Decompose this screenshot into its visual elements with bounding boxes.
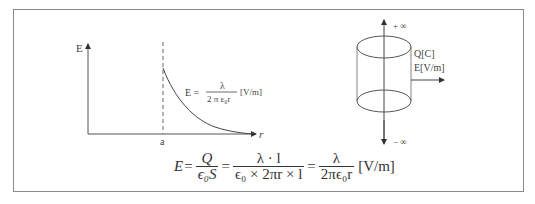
x-axis-label: r — [259, 128, 264, 140]
charge-label: Q[C] — [414, 48, 435, 59]
fraction-3-numerator: λ — [331, 151, 342, 166]
fraction-lambda-over-2pi-eps-r: λ 2πϵ₀r — [319, 151, 354, 182]
minus-infinity-label: − ∞ — [393, 137, 407, 147]
fraction-3-denominator: 2πϵ₀r — [319, 166, 354, 182]
formula-lhs: E — [174, 158, 183, 175]
fraction-2-numerator: λ · l — [255, 151, 283, 166]
gauss-law-formula: E = Q ϵ₀S = λ · l ϵ₀ × 2πr × l = λ 2πϵ₀r… — [174, 151, 395, 182]
formula-equals-2: = — [221, 158, 229, 175]
curve-formula-unit: [V/m] — [240, 87, 262, 97]
radius-marker-label: a — [160, 136, 165, 147]
plus-infinity-label: + ∞ — [393, 21, 407, 31]
curve-formula-numerator: λ — [220, 80, 225, 91]
y-axis-label: E — [76, 42, 83, 54]
fraction-1-denominator: ϵ₀S — [196, 166, 219, 182]
formula-equals-3: = — [307, 158, 315, 175]
formula-unit: [V/m] — [358, 158, 395, 175]
field-graph: E r a E = λ 2 π ε₀r [V/m] — [76, 42, 264, 147]
fraction-q-over-eps-s: Q ϵ₀S — [196, 151, 219, 182]
fraction-2-denominator: ϵ₀ × 2πr × l — [233, 166, 304, 182]
curve-formula-denominator: 2 π ε₀r — [207, 94, 230, 104]
formula-equals-1: = — [184, 158, 192, 175]
fraction-1-numerator: Q — [200, 151, 215, 166]
charged-cylinder: + ∞ − ∞ Q[C] E[V/m] — [357, 20, 445, 147]
curve-formula-lhs: E = — [185, 87, 200, 98]
field-label: E[V/m] — [414, 62, 445, 73]
fraction-lambda-l: λ · l ϵ₀ × 2πr × l — [233, 151, 304, 182]
curve-formula: E = λ 2 π ε₀r [V/m] — [185, 80, 262, 104]
